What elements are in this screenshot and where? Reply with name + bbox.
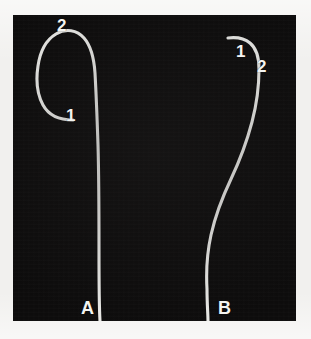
curve-b-series-label: B	[218, 299, 231, 317]
curve-b-endpoint-2-label: 2	[257, 58, 266, 75]
curve-b-path	[207, 38, 259, 321]
curve-b-endpoint-1-label: 1	[236, 43, 245, 60]
figure-root: 2 1 A 1 2 B	[0, 0, 311, 339]
curve-a-endpoint-1-label: 1	[66, 107, 75, 124]
curve-a-path	[37, 31, 100, 321]
curve-a-series-label: A	[81, 299, 94, 317]
curve-canvas	[13, 15, 296, 321]
plot-panel: 2 1 A 1 2 B	[13, 15, 296, 321]
curve-a-endpoint-2-label: 2	[57, 17, 66, 34]
